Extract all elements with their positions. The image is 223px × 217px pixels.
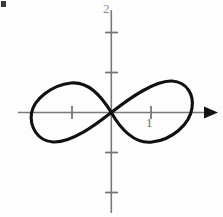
lemniscate-figure: 2 1 — [0, 0, 223, 217]
x-axis-tick-label-1: 1 — [146, 116, 153, 129]
plot-canvas — [0, 0, 223, 217]
x-axis-arrow-icon — [204, 107, 218, 119]
y-axis-tick-label-2: 2 — [103, 2, 110, 15]
